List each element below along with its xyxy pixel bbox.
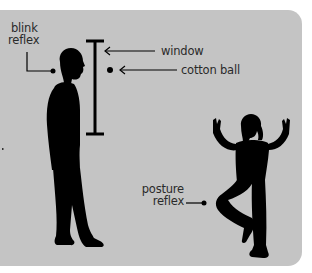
blink-reflex-label-line2: reflex — [8, 34, 39, 46]
posture-reflex-label: posture reflex — [138, 183, 184, 207]
diagram-artwork — [0, 0, 312, 273]
cotton-ball-label: cotton ball — [181, 64, 240, 76]
cotton-ball-arrow-icon — [120, 66, 177, 74]
stray-mark — [2, 148, 4, 150]
window-arrow-icon — [105, 47, 155, 55]
posture-reflex-pointer — [186, 201, 207, 206]
child-silhouette — [213, 114, 290, 258]
posture-reflex-label-line2: reflex — [138, 195, 184, 207]
window-label: window — [161, 45, 203, 57]
window-bar — [86, 41, 104, 134]
cotton-ball-dot — [107, 67, 113, 73]
blink-reflex-pointer — [27, 52, 56, 74]
blink-reflex-label: blink reflex — [11, 22, 39, 46]
